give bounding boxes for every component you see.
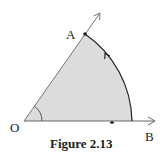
label-b: B [145,129,154,144]
label-o: O [10,120,19,135]
label-a: A [66,27,76,42]
figure-diagram: A O B Figure 2.13 [0,0,163,157]
figure-caption: Figure 2.13 [50,136,113,151]
shaded-sector [24,34,132,121]
point-a-dot [83,32,87,36]
point-dot-on-ob [110,121,114,124]
